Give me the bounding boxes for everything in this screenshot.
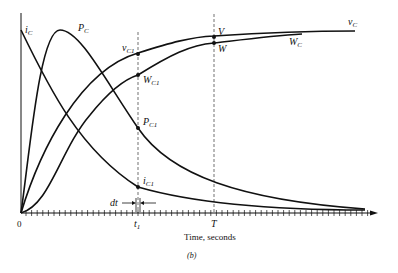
- W-point: [212, 41, 216, 45]
- t1-label: t1: [134, 218, 140, 231]
- dt-label: dt: [110, 197, 118, 208]
- PC-label: PC: [77, 22, 89, 35]
- capacitor-charging-diagram: iC PC vC WC vC1 WC1 PC1 iC1 V W dt 0 t1 …: [0, 0, 398, 273]
- x-axis-arrow-icon: [370, 211, 378, 216]
- iC-label: iC: [25, 24, 33, 37]
- iC1-label: iC1: [143, 175, 154, 188]
- WC-curve: [21, 34, 302, 213]
- x-axis-label: Time, seconds: [184, 232, 236, 242]
- vC-label: vC: [348, 16, 357, 29]
- PC1-point: [136, 126, 140, 130]
- WC1-point: [136, 73, 140, 77]
- dt-arrowhead-left-icon: [132, 201, 136, 205]
- dt-arrowhead-right-icon: [140, 201, 144, 205]
- W-label: W: [218, 43, 228, 54]
- WC1-label: WC1: [143, 74, 160, 87]
- vC1-point: [136, 52, 140, 56]
- T-label: T: [211, 218, 218, 229]
- vC1-label: vC1: [122, 42, 135, 55]
- PC1-label: PC1: [142, 116, 157, 129]
- figure-caption: (b): [187, 251, 197, 260]
- V-point: [212, 35, 216, 39]
- iC-curve: [21, 30, 365, 210]
- WC-label: WC: [289, 36, 302, 49]
- iC1-point: [136, 185, 140, 189]
- origin-label: 0: [17, 219, 22, 229]
